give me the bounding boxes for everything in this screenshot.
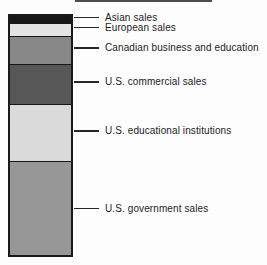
- stacked-bar-figure: Asian salesEuropean salesCanadian busine…: [0, 0, 267, 265]
- callout-label-canadian-business-and-education: Canadian business and education: [99, 42, 259, 54]
- bar-segment-u-s-government-sales: [10, 161, 71, 255]
- stacked-bar: [8, 14, 73, 257]
- bar-segment-asian-sales: [10, 16, 71, 23]
- callout-label-european-sales: European sales: [99, 22, 176, 34]
- bar-segment-canadian-business-and-education: [10, 36, 71, 64]
- leader-line: [74, 17, 99, 18]
- leader-line: [74, 81, 99, 82]
- callout-row-u-s-commercial-sales: U.S. commercial sales: [74, 75, 207, 89]
- callout-label-u-s-government-sales: U.S. government sales: [99, 203, 208, 215]
- callout-row-u-s-government-sales: U.S. government sales: [74, 202, 208, 216]
- callout-row-canadian-business-and-education: Canadian business and education: [74, 41, 259, 55]
- callout-row-u-s-educational-institutions: U.S. educational institutions: [74, 124, 231, 138]
- bar-segment-u-s-commercial-sales: [10, 64, 71, 104]
- callout-label-u-s-educational-institutions: U.S. educational institutions: [99, 125, 231, 137]
- callout-label-u-s-commercial-sales: U.S. commercial sales: [99, 76, 207, 88]
- leader-line: [74, 27, 99, 28]
- leader-line: [74, 130, 99, 131]
- bar-segment-u-s-educational-institutions: [10, 104, 71, 161]
- callout-row-european-sales: European sales: [74, 21, 176, 35]
- leader-line: [74, 47, 99, 48]
- leader-line: [74, 208, 99, 209]
- bar-segment-european-sales: [10, 23, 71, 37]
- cropped-rule-artifact: [75, 0, 212, 2]
